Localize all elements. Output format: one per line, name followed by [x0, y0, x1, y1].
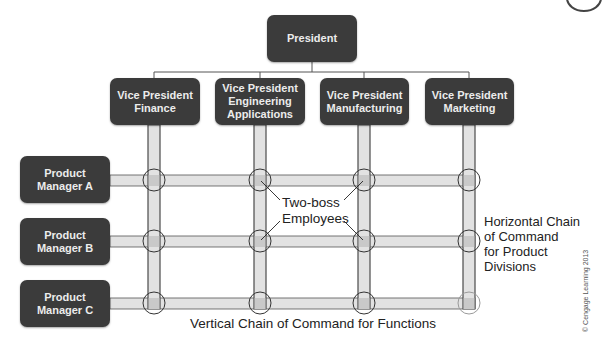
vp-engineering-box: Vice President Engineering Applications — [215, 78, 305, 125]
product-manager-a-label: Product Manager A — [37, 167, 93, 193]
vp-finance-box: Vice President Finance — [110, 78, 200, 125]
product-manager-c-box: Product Manager C — [20, 280, 110, 327]
vertical-bar-engineering — [254, 125, 266, 309]
vertical-bar-manufacturing — [358, 125, 370, 309]
matrix-org-chart: President Vice President Finance Vice Pr… — [0, 0, 607, 346]
vp-manufacturing-box: Vice President Manufacturing — [320, 78, 409, 125]
vp-marketing-label: Vice President Marketing — [432, 89, 508, 115]
vp-manufacturing-label: Vice President Manufacturing — [327, 89, 403, 115]
product-manager-a-box: Product Manager A — [20, 156, 110, 203]
product-manager-c-label: Product Manager C — [37, 291, 93, 317]
president-box: President — [267, 15, 357, 62]
vertical-chain-label: Vertical Chain of Command for Functions — [190, 316, 436, 332]
product-manager-b-label: Product Manager B — [37, 229, 93, 255]
vertical-bar-finance — [148, 125, 160, 309]
copyright-notice: © Cengage Learning 2013 — [582, 250, 589, 332]
vertical-bar-marketing — [463, 125, 475, 309]
horizontal-chain-label: Horizontal Chain of Command for Product … — [484, 214, 580, 274]
product-manager-b-box: Product Manager B — [20, 218, 110, 265]
vp-marketing-box: Vice President Marketing — [425, 78, 514, 125]
president-label: President — [287, 32, 337, 45]
vp-finance-label: Vice President Finance — [117, 89, 193, 115]
org-connector-lines — [154, 62, 469, 78]
two-boss-employees-label: Two-boss Employees — [282, 195, 349, 227]
vp-engineering-label: Vice President Engineering Applications — [222, 82, 298, 121]
